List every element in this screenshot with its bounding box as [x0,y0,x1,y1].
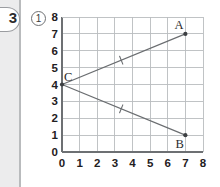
y-tick-label: 0 [46,146,58,158]
x-tick-label: 0 [55,157,69,169]
data-point-a [183,32,187,36]
x-tick-label: 2 [90,157,104,169]
y-tick-label: 7 [46,28,58,40]
y-tick-label: 5 [46,62,58,74]
data-point-b [183,133,187,137]
x-tick-label: 4 [126,157,140,169]
point-label-c: C [64,71,72,84]
point-label-a: A [174,19,183,32]
coordinate-graph: 012345678 012345678 ABC [0,0,220,187]
x-tick-label: 6 [161,157,175,169]
y-tick-label: 1 [46,129,58,141]
x-tick-label: 3 [108,157,122,169]
y-tick-label: 8 [46,11,58,23]
point-label-b: B [175,138,183,151]
y-tick-label: 2 [46,112,58,124]
x-tick-label: 5 [143,157,157,169]
y-tick-label: 3 [46,95,58,107]
x-tick-label: 7 [178,157,192,169]
x-tick-label: 8 [196,157,210,169]
x-tick-label: 1 [73,157,87,169]
worksheet-page: 3 1 012345678 012345678 ABC [0,0,220,187]
y-tick-label: 6 [46,45,58,57]
y-tick-label: 4 [46,79,58,91]
